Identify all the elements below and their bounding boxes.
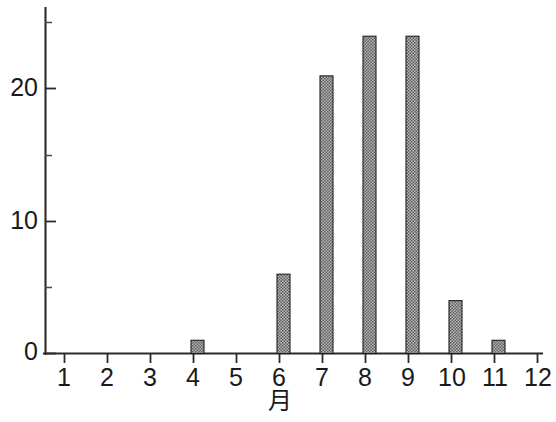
x-tick-label-1: 1 — [57, 363, 71, 391]
y-tick-label-20: 20 — [10, 73, 38, 101]
x-tick-label-8: 8 — [358, 363, 372, 391]
bar-month-7 — [320, 76, 333, 354]
x-tick-label-7: 7 — [315, 363, 329, 391]
x-axis-label: 月 — [268, 387, 292, 415]
bar-month-11 — [492, 340, 505, 353]
chart-canvas: 0 10 20 1 2 3 4 5 6 7 8 9 10 11 12 月 — [0, 0, 556, 422]
bar-chart-figure: 0 10 20 1 2 3 4 5 6 7 8 9 10 11 12 月 — [0, 0, 556, 422]
chart-background — [0, 0, 556, 422]
x-tick-label-5: 5 — [229, 363, 243, 391]
y-tick-label-0: 0 — [24, 337, 38, 365]
x-tick-label-9: 9 — [401, 363, 415, 391]
x-tick-label-2: 2 — [100, 363, 114, 391]
y-tick-label-10: 10 — [10, 206, 38, 234]
x-tick-label-12: 12 — [524, 363, 552, 391]
bar-month-9 — [406, 36, 419, 353]
bar-month-8 — [363, 36, 376, 353]
x-tick-label-10: 10 — [438, 363, 466, 391]
bar-month-4 — [191, 340, 204, 353]
x-tick-label-3: 3 — [143, 363, 157, 391]
x-tick-label-4: 4 — [186, 363, 200, 391]
bar-month-10 — [449, 301, 462, 354]
bar-month-6 — [277, 274, 290, 353]
x-tick-label-11: 11 — [482, 363, 508, 391]
